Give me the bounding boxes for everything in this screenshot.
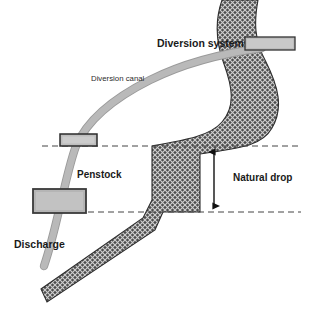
diversion-system-box-inner xyxy=(247,39,293,48)
diagram-canvas: Diversion system Diversion canal Penstoc… xyxy=(0,0,313,324)
label-discharge: Discharge xyxy=(14,238,65,250)
hydropower-scheme-diagram: Diversion system Diversion canal Penstoc… xyxy=(0,0,313,324)
diversion-system-structure xyxy=(245,37,295,50)
label-natural-drop: Natural drop xyxy=(233,172,292,183)
label-penstock: Penstock xyxy=(77,169,122,180)
powerhouse-box-inner xyxy=(36,192,83,210)
label-diversion-system: Diversion system xyxy=(157,37,244,49)
penstock-intake-structure xyxy=(60,134,97,146)
powerhouse-structure xyxy=(33,189,86,213)
label-diversion-canal: Diversion canal xyxy=(91,74,145,83)
penstock-intake-box-inner xyxy=(63,137,95,144)
